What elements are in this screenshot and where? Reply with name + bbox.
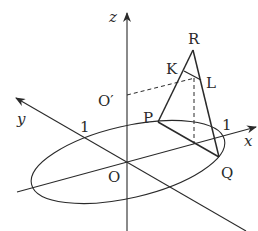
z-axis-label: z <box>108 8 117 26</box>
point-label-K: K <box>166 60 178 78</box>
diagram-canvas: z x y 1 1 O O′ P Q R K L <box>0 0 258 231</box>
point-label-O: O <box>108 168 120 186</box>
point-label-R: R <box>188 30 200 48</box>
point-label-L: L <box>206 74 216 92</box>
point-label-O-prime: O′ <box>98 92 114 110</box>
x-axis-label: x <box>244 132 253 150</box>
point-label-P: P <box>143 109 153 127</box>
x-tick-label: 1 <box>222 116 232 134</box>
y-tick-label: 1 <box>80 118 90 136</box>
dashed-oprime-to-KL <box>127 78 195 95</box>
x-axis <box>17 127 256 192</box>
point-label-Q: Q <box>221 164 233 182</box>
y-axis-label: y <box>16 110 26 128</box>
